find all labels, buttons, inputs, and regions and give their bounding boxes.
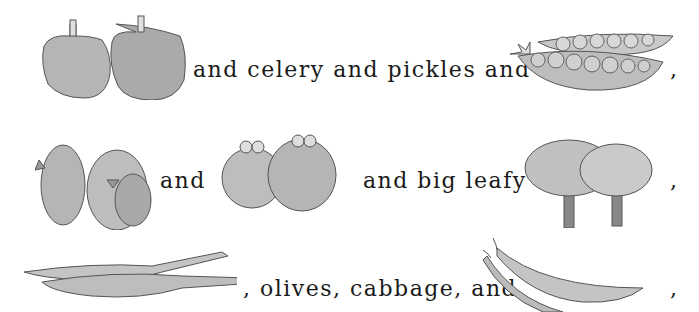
parrots-icon (35, 140, 160, 230)
line1-comma: , (670, 59, 679, 81)
pea-pods-icon (508, 30, 678, 96)
bell-peppers-icon (40, 14, 190, 100)
line2-comma: , (670, 170, 679, 192)
frogs-icon (212, 133, 352, 213)
trees-icon (524, 138, 654, 228)
green-beans-icon (483, 238, 648, 312)
line2-text: and big leafy (363, 170, 527, 192)
line3-text: , olives, cabbage, and (243, 278, 517, 300)
line3-comma: , (670, 278, 679, 300)
alligators-icon (22, 250, 237, 312)
line2-and: and (160, 170, 206, 192)
line1-text: and celery and pickles and (193, 59, 531, 81)
